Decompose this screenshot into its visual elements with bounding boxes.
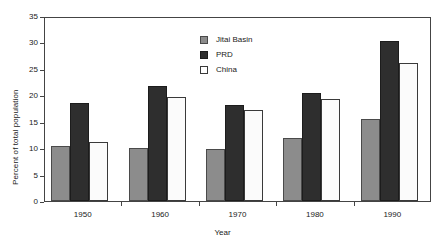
chart-legend: Jitai Basin PRD China (200, 34, 295, 79)
y-tick-label: 0 (8, 198, 38, 206)
x-tick-label: 1990 (367, 211, 417, 219)
bar-prd-1990 (380, 41, 399, 201)
y-tick-label: 15 (8, 119, 38, 127)
y-tick-label: 35 (8, 13, 38, 21)
legend-label-jitai-basin: Jitai Basin (216, 35, 252, 44)
bar-china-1990 (399, 63, 418, 201)
bar-jitai-basin-1970 (206, 149, 225, 201)
x-tick-mark (199, 202, 200, 206)
legend-swatch-icon-jitai-basin (200, 36, 208, 44)
legend-item-prd: PRD (200, 49, 295, 62)
legend-label-prd: PRD (216, 50, 233, 59)
plot-area: Jitai Basin PRD China (44, 17, 431, 202)
bar-china-1950 (89, 142, 108, 201)
x-tick-label: 1980 (290, 211, 340, 219)
x-axis-label: Year (0, 228, 445, 237)
x-tick-mark (121, 202, 122, 206)
bar-prd-1950 (70, 103, 89, 201)
bar-jitai-basin-1980 (283, 138, 302, 201)
x-tick-label: 1960 (135, 211, 185, 219)
x-tick-mark (276, 202, 277, 206)
y-tick-label: 30 (8, 39, 38, 47)
y-tick-label: 25 (8, 66, 38, 74)
x-tick-label: 1950 (58, 211, 108, 219)
legend-item-jitai-basin: Jitai Basin (200, 34, 295, 47)
legend-item-china: China (200, 64, 295, 77)
y-tick-label: 20 (8, 92, 38, 100)
legend-swatch-icon-china (200, 66, 208, 74)
bar-jitai-basin-1950 (51, 146, 70, 201)
y-tick-label: 10 (8, 145, 38, 153)
y-tick-mark (40, 202, 44, 203)
y-tick-label: 5 (8, 172, 38, 180)
legend-swatch-icon-prd (200, 51, 208, 59)
legend-label-china: China (216, 65, 237, 74)
bar-chart-figure: Percent of total population 051015202530… (0, 0, 445, 250)
bar-jitai-basin-1990 (361, 119, 380, 201)
bar-china-1960 (167, 97, 186, 201)
bar-prd-1970 (225, 105, 244, 201)
bar-china-1980 (321, 99, 340, 201)
bar-china-1970 (244, 110, 263, 201)
x-tick-mark (354, 202, 355, 206)
bar-jitai-basin-1960 (129, 148, 148, 201)
x-tick-label: 1970 (213, 211, 263, 219)
bar-prd-1980 (302, 93, 321, 201)
bar-prd-1960 (148, 86, 167, 201)
